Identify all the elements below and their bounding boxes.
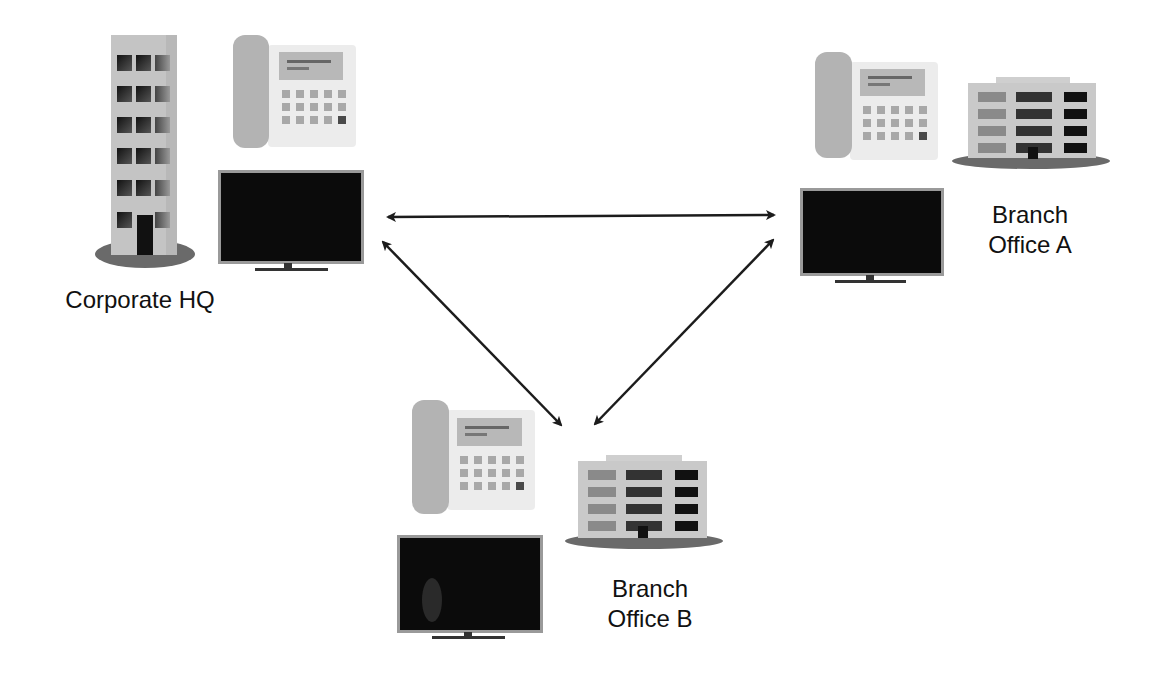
- label-branch-office-a: Branch Office A: [960, 200, 1100, 260]
- office-building-icon: [565, 455, 723, 549]
- video-monitor-icon: [800, 188, 944, 283]
- arrow-hq-branch-a: [388, 215, 774, 217]
- network-diagram: [0, 0, 1152, 676]
- video-monitor-icon: [218, 170, 364, 271]
- label-line-1: Branch: [580, 574, 720, 604]
- office-building-icon: [952, 77, 1110, 169]
- door: [638, 526, 648, 538]
- video-monitor-icon: [397, 535, 543, 639]
- tower-building-icon: [95, 35, 195, 268]
- arrow-branch-a-branch-b: [595, 240, 773, 424]
- label-corporate-hq: Corporate HQ: [20, 285, 260, 315]
- arrow-hq-branch-b: [383, 242, 561, 425]
- door: [1028, 147, 1038, 159]
- desk-phone-icon: [233, 35, 356, 148]
- label-line-2: Office A: [960, 230, 1100, 260]
- label-line-2: Office B: [580, 604, 720, 634]
- connection-arrows: [383, 215, 774, 425]
- label-line-1: Corporate HQ: [20, 285, 260, 315]
- desk-phone-icon: [815, 52, 938, 160]
- desk-phone-icon: [412, 400, 535, 514]
- door: [137, 215, 153, 255]
- label-line-1: Branch: [960, 200, 1100, 230]
- label-branch-office-b: Branch Office B: [580, 574, 720, 634]
- node-corporate-hq: [95, 35, 364, 271]
